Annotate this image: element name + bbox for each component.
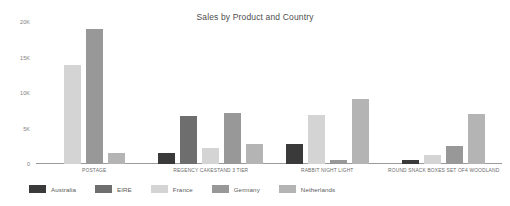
bar <box>446 146 463 164</box>
x-axis-category-label: POSTAGE <box>82 168 106 173</box>
chart-legend: AustraliaEIREFranceGermanyNetherlands <box>29 183 354 195</box>
legend-item-label: Australia <box>51 186 76 193</box>
bar <box>468 114 485 164</box>
x-axis-category-label: ROUND SNACK BOXES SET OF4 WOODLAND <box>388 168 499 173</box>
bar <box>224 113 241 164</box>
bar <box>202 148 219 164</box>
legend-item[interactable]: EIRE <box>95 185 132 193</box>
bar <box>180 116 197 164</box>
y-axis-tick-label: 10K <box>20 90 36 96</box>
bar <box>308 115 325 164</box>
bar <box>330 160 347 164</box>
bar-chart: Sales by Product and Country 05K10K15K20… <box>0 0 510 206</box>
legend-item[interactable]: Germany <box>212 185 260 193</box>
bar-group <box>158 22 263 164</box>
legend-item[interactable]: Netherlands <box>279 185 335 193</box>
y-axis-tick-label: 5K <box>23 126 36 132</box>
y-axis-tick-label: 0 <box>27 161 36 167</box>
legend-swatch-icon <box>279 185 296 193</box>
chart-title: Sales by Product and Country <box>0 12 510 22</box>
bar <box>246 144 263 164</box>
y-axis-tick-label: 15K <box>20 55 36 61</box>
bar <box>286 144 303 164</box>
bar <box>158 153 175 164</box>
legend-item[interactable]: France <box>151 185 193 193</box>
legend-item-label: France <box>173 186 193 193</box>
legend-swatch-icon <box>151 185 168 193</box>
bar <box>424 155 441 164</box>
y-axis-tick-label: 20K <box>20 19 36 25</box>
bar-group <box>286 22 369 164</box>
legend-swatch-icon <box>95 185 112 193</box>
bar <box>352 99 369 164</box>
bar <box>64 65 81 164</box>
bar-group <box>402 22 485 164</box>
bar <box>86 29 103 164</box>
legend-item-label: Netherlands <box>301 186 335 193</box>
plot-area <box>36 22 502 164</box>
bar <box>402 160 419 164</box>
legend-swatch-icon <box>29 185 46 193</box>
legend-swatch-icon <box>212 185 229 193</box>
x-axis-category-label: RABBIT NIGHT LIGHT <box>301 168 354 173</box>
legend-item-label: Germany <box>234 186 260 193</box>
bar-group <box>64 22 125 164</box>
legend-item-label: EIRE <box>117 186 132 193</box>
x-axis-category-label: REGENCY CAKESTAND 3 TIER <box>173 168 248 173</box>
bar <box>108 153 125 164</box>
legend-item[interactable]: Australia <box>29 185 76 193</box>
